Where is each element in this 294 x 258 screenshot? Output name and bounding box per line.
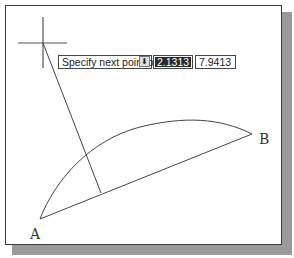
point-label-b: B — [259, 131, 269, 147]
line-a-b — [40, 134, 252, 219]
dynamic-input-prompt: Specify next point or — [58, 55, 152, 69]
distance-input[interactable]: 2.1313 — [153, 55, 193, 69]
angle-input[interactable]: 7.9413 — [195, 55, 236, 69]
down-arrow-icon[interactable]: ⬇ — [139, 56, 150, 67]
point-label-a: A — [30, 226, 40, 242]
distance-value: 2.1313 — [155, 57, 191, 67]
angle-value: 7.9413 — [199, 56, 231, 68]
drawing-svg — [0, 0, 294, 258]
arc-a-b — [40, 120, 252, 219]
